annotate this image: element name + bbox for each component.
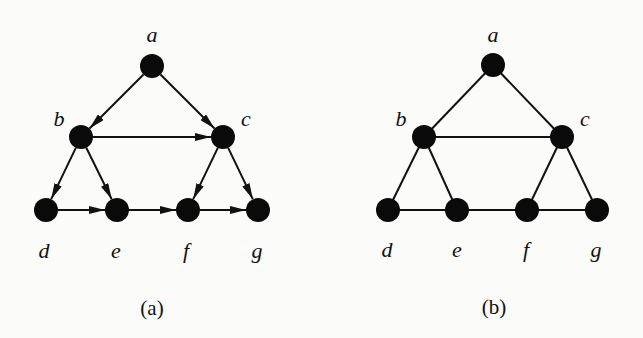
node-g xyxy=(585,198,609,222)
node-d xyxy=(34,198,58,222)
node-label-a: a xyxy=(147,22,158,47)
node-label-e: e xyxy=(111,238,121,263)
edge-a-c xyxy=(493,65,562,137)
panel-b-undirected-graph: abcdefg(b) xyxy=(376,22,609,319)
edge-b-d xyxy=(51,148,76,199)
panel-caption: (a) xyxy=(140,296,163,320)
node-a xyxy=(481,53,505,77)
node-e xyxy=(105,198,129,222)
node-d xyxy=(376,198,400,222)
node-label-a: a xyxy=(488,22,499,47)
node-f xyxy=(515,198,539,222)
node-c xyxy=(211,125,235,149)
node-label-d: d xyxy=(382,237,394,262)
edge-c-f xyxy=(527,137,562,210)
node-label-c: c xyxy=(241,106,251,131)
node-e xyxy=(445,198,469,222)
node-label-g: g xyxy=(252,238,263,263)
node-label-d: d xyxy=(39,238,51,263)
node-g xyxy=(246,198,270,222)
edge-c-f xyxy=(193,148,218,199)
panel-a-directed-graph: abcdefg(a) xyxy=(34,22,270,320)
edge-c-g xyxy=(562,137,597,210)
node-f xyxy=(176,198,200,222)
node-label-g: g xyxy=(591,237,602,262)
node-label-e: e xyxy=(452,237,462,262)
node-b xyxy=(412,125,436,149)
node-a xyxy=(140,54,164,78)
edge-b-e xyxy=(86,148,111,199)
edge-a-c xyxy=(160,74,214,128)
panel-caption: (b) xyxy=(482,295,507,319)
graph-figure: abcdefg(a) abcdefg(b) xyxy=(0,0,643,338)
node-label-b: b xyxy=(396,106,407,131)
edge-b-e xyxy=(424,137,457,210)
node-label-f: f xyxy=(523,237,532,262)
edge-a-b xyxy=(89,74,143,128)
node-b xyxy=(69,125,93,149)
edge-c-g xyxy=(228,148,253,199)
edge-a-b xyxy=(424,65,493,137)
edge-b-d xyxy=(388,137,424,210)
node-label-b: b xyxy=(54,106,65,131)
node-label-c: c xyxy=(580,106,590,131)
node-c xyxy=(550,125,574,149)
node-label-f: f xyxy=(183,238,192,263)
